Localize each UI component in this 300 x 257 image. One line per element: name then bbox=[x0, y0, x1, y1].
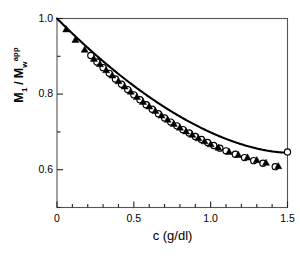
plot-canvas bbox=[0, 0, 300, 257]
y-axis-label-text: M1 / Mwapp bbox=[12, 47, 26, 102]
figure: M1 / Mwapp c (g/dl) 00.51.01.50.60.81.0 bbox=[0, 0, 300, 257]
x-axis-label: c (g/dl) bbox=[57, 228, 288, 243]
y-tick-label: 0.8 bbox=[27, 87, 53, 99]
x-tick-label: 1.5 bbox=[277, 212, 299, 224]
x-tick-label: 0.5 bbox=[123, 212, 145, 224]
x-tick-label: 1.0 bbox=[200, 212, 222, 224]
y-tick-label: 1.0 bbox=[27, 12, 53, 24]
x-tick-label: 0 bbox=[46, 212, 68, 224]
y-tick-label: 0.6 bbox=[27, 163, 53, 175]
data-curve bbox=[57, 19, 288, 153]
y-axis-label: M1 / Mwapp bbox=[11, 25, 29, 125]
